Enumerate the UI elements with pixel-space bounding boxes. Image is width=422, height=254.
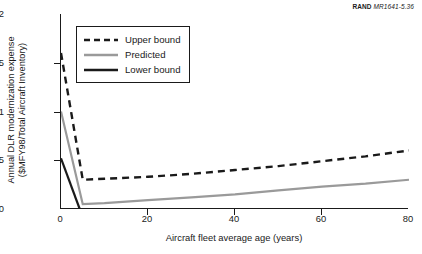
legend-item-predicted: Predicted — [84, 47, 180, 62]
y-tick-label-1: 1 — [0, 106, 4, 117]
legend-label-lower-bound: Lower bound — [125, 64, 180, 75]
legend-item-upper-bound: Upper bound — [84, 32, 180, 47]
rand-figure-tag: RAND MR1641-5.36 — [352, 3, 414, 10]
chart-legend: Upper bound Predicted Lower bound — [76, 26, 190, 83]
x-tick-label-0: 0 — [45, 213, 75, 224]
legend-label-upper-bound: Upper bound — [125, 34, 180, 45]
legend-label-predicted: Predicted — [125, 49, 166, 60]
legend-swatch-upper-bound — [84, 35, 118, 45]
chart-figure: RAND MR1641-5.36 Annual DLR modernizatio… — [0, 0, 422, 254]
y-axis-title-line1: Annual DLR modernization expense — [6, 36, 17, 183]
x-tick-mark-40 — [234, 209, 235, 215]
y-axis-title-line2: ($MFY98/Total Aircraft Inventory) — [17, 43, 28, 177]
y-tick-label-0p5: 0.5 — [0, 154, 4, 165]
rand-figure-code: MR1641-5.36 — [374, 3, 414, 10]
x-tick-label-80: 80 — [393, 213, 422, 224]
y-tick-label-0: 0 — [0, 203, 4, 214]
legend-item-lower-bound: Lower bound — [84, 62, 180, 77]
y-axis-title: Annual DLR modernization expense ($MFY98… — [2, 12, 32, 208]
legend-swatch-predicted — [84, 50, 118, 60]
series-line-predicted — [61, 112, 409, 205]
x-tick-mark-20 — [147, 209, 148, 215]
x-axis-title: Aircraft fleet average age (years) — [60, 232, 408, 243]
x-tick-mark-60 — [321, 209, 322, 215]
y-tick-label-2: 2 — [0, 8, 4, 19]
legend-swatch-lower-bound — [84, 65, 118, 75]
y-tick-label-1p5: 1.5 — [0, 57, 4, 68]
rand-brand-label: RAND — [352, 3, 371, 10]
